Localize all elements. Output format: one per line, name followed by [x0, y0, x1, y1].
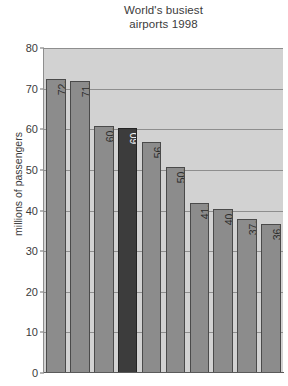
bar-value-label: 36.6 [271, 224, 281, 240]
bar[interactable]: 41.9Frankfurt [190, 203, 210, 373]
x-axis-line [44, 372, 284, 373]
bar-value-label: 41.9 [199, 203, 209, 219]
bar[interactable]: 36.6Denver [261, 224, 281, 373]
chart-title-line-1: World's busiest [44, 3, 283, 17]
y-axis-ticks: 01020304050607080 [0, 0, 44, 386]
bar-value-label: 60.2 [128, 128, 138, 144]
y-tick-label: 10 [26, 326, 38, 338]
bar-chart: World's busiest airports 1998 millions o… [0, 0, 288, 386]
bar[interactable]: 40.3San Francisco [213, 209, 233, 373]
chart-title-line-2: airports 1998 [44, 17, 283, 31]
bar-value-label: 40.3 [223, 209, 233, 225]
y-tick-label: 60 [26, 123, 38, 135]
y-tick-label: 80 [26, 42, 38, 54]
y-tick-label: 50 [26, 164, 38, 176]
bar[interactable]: 72.3Atlanta [46, 79, 66, 373]
bar[interactable]: 37.9Paris [237, 219, 257, 373]
bar[interactable]: 50.8Tokyo [166, 167, 186, 373]
bar-value-label: 37.9 [247, 219, 257, 235]
gridline [44, 48, 283, 49]
y-tick-label: 70 [26, 83, 38, 95]
plot-area: 72.3Atlanta71.9Chicago60.9Los Angeles60.… [44, 48, 283, 373]
y-tick-label: 30 [26, 245, 38, 257]
bar[interactable]: 60.9Los Angeles [94, 126, 114, 373]
bar-value-label: 50.8 [175, 167, 185, 183]
bar-value-label: 60.9 [104, 126, 114, 142]
y-tick-label: 40 [26, 205, 38, 217]
chart-title: World's busiest airports 1998 [44, 3, 283, 31]
bar[interactable]: 71.9Chicago [70, 81, 90, 373]
y-tick-label: 0 [32, 367, 38, 379]
bar[interactable]: 60.2Heathrow [118, 128, 138, 373]
bar-value-label: 56.9 [152, 142, 162, 158]
y-tick-label: 20 [26, 286, 38, 298]
bar-value-label: 72.3 [56, 79, 66, 95]
bar-value-label: 71.9 [80, 81, 90, 97]
bar[interactable]: 56.9Dallas [142, 142, 162, 373]
